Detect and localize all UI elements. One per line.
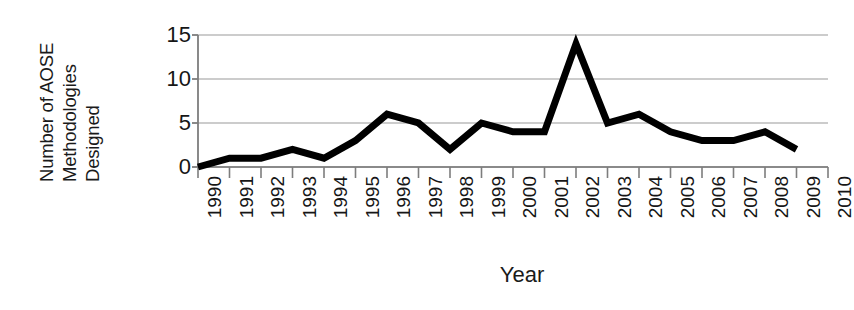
y-axis-title-line-1: Number of AOSE [36,43,58,182]
x-tick-label: 1998 [457,176,476,218]
data-series-line [198,44,797,167]
x-axis-tick-labels: 1990199119921993199419951996199719981999… [198,176,854,246]
x-tick-label: 1991 [237,176,256,218]
x-tick-label: 2008 [772,176,791,218]
x-tick-label: 2001 [552,176,571,218]
y-axis-title-line-2: Methodologies [59,64,81,182]
x-axis-title: Year [0,262,854,288]
x-tick-label: 2003 [615,176,634,218]
x-tick-label: 2006 [709,176,728,218]
y-tick-label: 15 [151,24,191,46]
x-tick-label: 2004 [646,176,665,218]
x-tick-label: 1996 [394,176,413,218]
x-tick-label: 1990 [205,176,224,218]
y-axis-title: Number of AOSE Methodologies Designed [14,0,106,200]
x-tick-label: 2009 [804,176,823,218]
x-tick-label: 2002 [583,176,602,218]
x-tick-label: 2000 [520,176,539,218]
x-tick-label: 1994 [331,176,350,218]
chart-figure: Number of AOSE Methodologies Designed 05… [0,0,854,310]
x-tick-label: 1993 [300,176,319,218]
y-tick-label: 10 [151,68,191,90]
x-tick-label: 2010 [835,176,854,218]
x-tick-label: 1999 [489,176,508,218]
series-polyline [198,44,797,167]
y-axis-tick-labels: 051015 [145,0,191,200]
y-tick-label: 0 [151,156,191,178]
x-axis-title-text: Year [500,262,544,288]
y-tick-label: 5 [151,112,191,134]
x-tick-label: 1995 [363,176,382,218]
x-tick-label: 2005 [678,176,697,218]
x-tick-label: 1992 [268,176,287,218]
x-tick-label: 1997 [426,176,445,218]
x-tick-label: 2007 [741,176,760,218]
y-axis-title-line-3: Designed [82,105,104,182]
plot-area [198,35,828,167]
